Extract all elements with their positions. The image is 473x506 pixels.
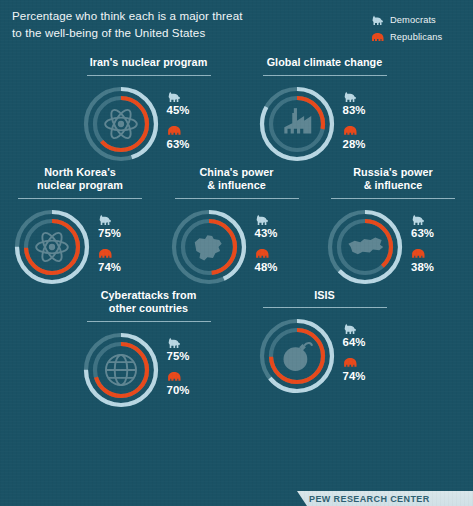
source-banner: PEW RESEARCH CENTER bbox=[297, 491, 473, 506]
elephant-icon bbox=[167, 124, 182, 137]
globe-icon bbox=[102, 351, 140, 389]
card-body: 64%74% bbox=[249, 314, 401, 398]
card-divider bbox=[263, 75, 387, 76]
card-title-line-1: ISIS bbox=[253, 289, 397, 303]
donut-wrap bbox=[79, 328, 163, 412]
card-title-line-1: Russia's power bbox=[321, 166, 465, 180]
elephant-icon bbox=[343, 124, 358, 137]
atom-icon bbox=[33, 228, 71, 266]
stat-republicans: 70% bbox=[167, 370, 219, 404]
republican-value: 28% bbox=[343, 137, 395, 152]
legend: Democrats Republicans bbox=[371, 11, 461, 45]
card-title: Russia's power& influence bbox=[317, 166, 469, 193]
card-divider bbox=[18, 198, 142, 199]
card-title-line-2: & influence bbox=[165, 179, 309, 193]
threat-card: ISIS64%74% bbox=[249, 289, 401, 412]
republican-value: 74% bbox=[98, 260, 150, 275]
center-icon-wrap bbox=[278, 105, 316, 143]
headline-line-1: Percentage who think each is a major thr… bbox=[12, 8, 342, 25]
page-title: Percentage who think each is a major thr… bbox=[12, 8, 342, 41]
threat-card: Russia's power& influence63%38% bbox=[317, 166, 469, 289]
donkey-icon bbox=[167, 90, 182, 103]
card-divider bbox=[263, 307, 387, 308]
card-divider bbox=[87, 75, 211, 76]
card-title: North Korea'snuclear program bbox=[4, 166, 156, 193]
stat-republicans: 74% bbox=[98, 247, 150, 281]
card-title: Iran's nuclear program bbox=[73, 56, 225, 70]
stats: 83%28% bbox=[343, 90, 395, 158]
stats: 43%48% bbox=[255, 213, 307, 281]
legend-item-democrats: Democrats bbox=[371, 11, 461, 28]
russia-map-icon bbox=[346, 228, 384, 266]
card-title: Cyberattacks fromother countries bbox=[73, 289, 225, 316]
headline-line-2: to the well-being of the United States bbox=[12, 25, 342, 42]
democrat-value: 75% bbox=[98, 226, 150, 241]
democrat-value: 63% bbox=[411, 226, 463, 241]
threat-card: Iran's nuclear program45%63% bbox=[73, 56, 225, 166]
elephant-icon bbox=[98, 247, 113, 260]
card-divider bbox=[175, 198, 299, 199]
democrat-value: 75% bbox=[167, 349, 219, 364]
stat-democrats: 75% bbox=[98, 213, 150, 247]
stat-democrats: 45% bbox=[167, 90, 219, 124]
stat-democrats: 83% bbox=[343, 90, 395, 124]
card-title-line-2: nuclear program bbox=[8, 179, 152, 193]
donkey-icon bbox=[343, 90, 358, 103]
donkey-icon bbox=[255, 213, 270, 226]
donut-wrap bbox=[255, 82, 339, 166]
card-title-line-2: & influence bbox=[321, 179, 465, 193]
stat-republicans: 28% bbox=[343, 124, 395, 158]
donkey-icon bbox=[411, 213, 426, 226]
card-body: 43%48% bbox=[161, 205, 313, 289]
legend-item-republicans: Republicans bbox=[371, 28, 461, 45]
elephant-icon bbox=[411, 247, 426, 260]
stat-republicans: 38% bbox=[411, 247, 463, 281]
stat-republicans: 48% bbox=[255, 247, 307, 281]
democrat-value: 64% bbox=[343, 335, 395, 350]
stats: 45%63% bbox=[167, 90, 219, 158]
stat-democrats: 63% bbox=[411, 213, 463, 247]
democrat-value: 43% bbox=[255, 226, 307, 241]
chart-row-1: Iran's nuclear program45%63%Global clima… bbox=[0, 56, 473, 166]
stats: 75%74% bbox=[98, 213, 150, 281]
donkey-icon bbox=[371, 14, 385, 26]
card-body: 75%74% bbox=[4, 205, 156, 289]
stat-democrats: 64% bbox=[343, 322, 395, 356]
card-body: 75%70% bbox=[73, 328, 225, 412]
republican-value: 70% bbox=[167, 383, 219, 398]
card-divider bbox=[331, 198, 455, 199]
card-body: 83%28% bbox=[249, 82, 401, 166]
threat-card: Cyberattacks fromother countries75%70% bbox=[73, 289, 225, 412]
center-icon-wrap bbox=[102, 105, 140, 143]
elephant-icon bbox=[343, 356, 358, 369]
stats: 64%74% bbox=[343, 322, 395, 390]
center-icon-wrap bbox=[278, 337, 316, 375]
donut-wrap bbox=[10, 205, 94, 289]
center-icon-wrap bbox=[33, 228, 71, 266]
source-banner-label: PEW RESEARCH CENTER bbox=[297, 491, 473, 504]
elephant-icon bbox=[167, 370, 182, 383]
democrat-value: 45% bbox=[167, 103, 219, 118]
bomb-icon bbox=[278, 337, 316, 375]
card-title-line-1: North Korea's bbox=[8, 166, 152, 180]
donut-wrap bbox=[79, 82, 163, 166]
card-divider bbox=[87, 321, 211, 322]
card-title-line-1: Iran's nuclear program bbox=[77, 56, 221, 70]
republican-value: 38% bbox=[411, 260, 463, 275]
atom-icon bbox=[102, 105, 140, 143]
card-body: 63%38% bbox=[317, 205, 469, 289]
card-title-line-2: other countries bbox=[77, 302, 221, 316]
chart-grid: Iran's nuclear program45%63%Global clima… bbox=[0, 56, 473, 412]
stat-republicans: 63% bbox=[167, 124, 219, 158]
card-title: Global climate change bbox=[249, 56, 401, 70]
threat-card: China's power& influence43%48% bbox=[161, 166, 313, 289]
legend-label-democrats: Democrats bbox=[390, 15, 436, 25]
card-title-line-1: Cyberattacks from bbox=[77, 289, 221, 303]
republican-value: 48% bbox=[255, 260, 307, 275]
stat-democrats: 43% bbox=[255, 213, 307, 247]
header: Percentage who think each is a major thr… bbox=[12, 8, 463, 54]
chart-row-3: Cyberattacks fromother countries75%70%IS… bbox=[0, 289, 473, 412]
donut-wrap bbox=[167, 205, 251, 289]
card-body: 45%63% bbox=[73, 82, 225, 166]
republican-value: 74% bbox=[343, 369, 395, 384]
